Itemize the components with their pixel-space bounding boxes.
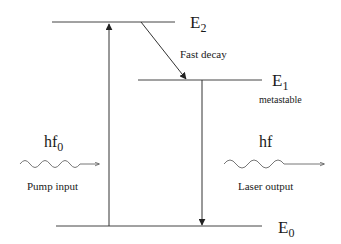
laser-wave-icon (224, 160, 324, 168)
label-e1: E1 (272, 71, 288, 93)
label-e2: E2 (190, 13, 206, 35)
label-laser-photon: hf (259, 133, 273, 150)
pump-wave-icon (20, 161, 99, 168)
label-pump-input: Pump input (27, 180, 78, 192)
label-metastable: metastable (259, 94, 302, 105)
label-e0: E0 (278, 218, 294, 240)
label-fast-decay: Fast decay (180, 48, 227, 60)
label-laser-output: Laser output (238, 180, 293, 192)
energy-level-diagram: E2 E1 metastable E0 Fast decay hf0 Pump … (0, 0, 341, 244)
label-pump-photon: hf0 (44, 133, 63, 154)
